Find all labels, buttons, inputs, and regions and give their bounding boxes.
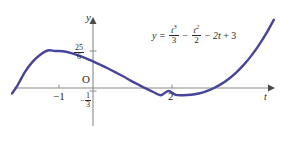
equation-term2-numerator: t2 xyxy=(192,26,202,35)
y-tick-label-minus-sign: − xyxy=(80,97,85,105)
x-tick-label-2: 2 xyxy=(168,91,174,102)
equation-annotation: y = t3 3 − t2 2 − 2t + 3 xyxy=(152,26,236,46)
equation-operator-2: − xyxy=(205,31,211,41)
y-tick-label-numerator: 1 xyxy=(85,92,91,100)
x-tick-label-neg1: −1 xyxy=(53,91,65,102)
x-axis-arrowhead xyxy=(268,85,275,92)
y-tick-label-numerator: 25 xyxy=(74,44,84,52)
equation-term1-fraction: t3 3 xyxy=(169,26,179,46)
equation-term3: 2t xyxy=(213,31,221,41)
equation-term4: 3 xyxy=(231,31,236,41)
equation-equals-sign: = xyxy=(159,31,165,41)
y-tick-label-25-over-6: 25 6 xyxy=(74,44,84,62)
equation-term1-numerator: t3 xyxy=(169,26,179,35)
equation-operator-1: − xyxy=(182,31,188,41)
equation-operator-3: + xyxy=(223,31,229,41)
y-axis-label: y xyxy=(86,12,91,23)
equation-term2-denominator: 2 xyxy=(192,35,202,45)
y-tick-label-denominator: 3 xyxy=(85,100,91,109)
y-tick-label-denominator: 6 xyxy=(74,52,84,61)
graph-figure xyxy=(0,0,281,148)
t-axis-label: t xyxy=(264,92,267,102)
equation-term2-fraction: t2 2 xyxy=(192,26,202,46)
y-tick-label-fraction-stack: 1 3 xyxy=(85,92,91,110)
y-tick-label-neg1-over-3: − 1 3 xyxy=(80,92,91,110)
origin-label: O xyxy=(82,74,90,85)
equation-term2-exponent: 2 xyxy=(196,23,199,30)
equation-lhs: y xyxy=(152,31,156,41)
equation-term1-exponent: 3 xyxy=(174,23,177,30)
equation-term1-denominator: 3 xyxy=(169,35,179,45)
